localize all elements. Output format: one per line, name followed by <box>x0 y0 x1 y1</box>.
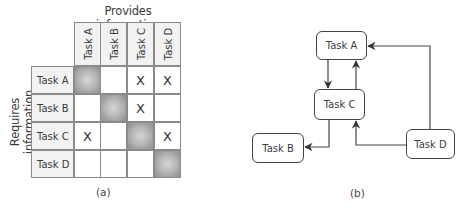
edge-d-to-c <box>356 121 406 145</box>
caption-b: (b) <box>350 187 365 199</box>
node-task-b: Task B <box>252 133 304 163</box>
edge-c-to-b <box>305 120 329 147</box>
node-task-c: Task C <box>314 89 365 120</box>
graph-edges <box>0 0 464 214</box>
edge-d-to-a <box>368 46 430 129</box>
node-task-a: Task A <box>316 31 367 60</box>
node-task-d: Task D <box>406 129 455 159</box>
